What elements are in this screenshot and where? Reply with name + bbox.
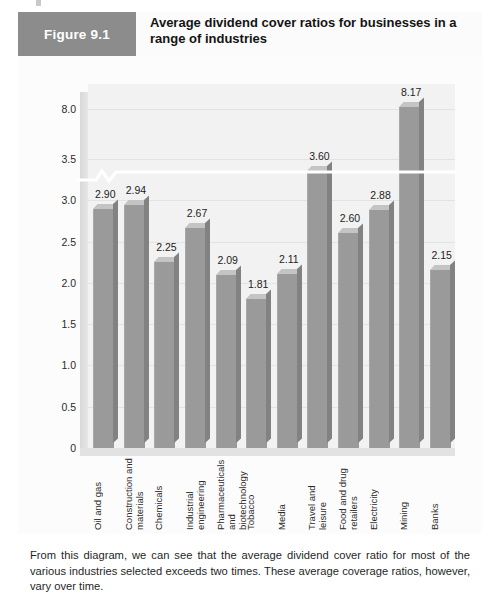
bar-front-face bbox=[307, 171, 328, 448]
y-axis-tick-label: 0 bbox=[44, 442, 76, 454]
bar-side-face bbox=[266, 289, 271, 443]
plot-floor bbox=[80, 448, 455, 456]
figure-number-badge: Figure 9.1 bbox=[18, 12, 136, 56]
y-axis-tick-label: 0.5 bbox=[44, 401, 76, 413]
bar-value-label: 2.15 bbox=[423, 249, 461, 261]
bar-value-label: 3.60 bbox=[300, 150, 338, 162]
plot-left-wall bbox=[80, 92, 88, 456]
panel-divider bbox=[18, 534, 482, 535]
page-artifact-speck bbox=[36, 0, 41, 6]
bar-side-face bbox=[327, 161, 332, 443]
bar-front-face bbox=[338, 233, 359, 448]
bar[interactable] bbox=[246, 299, 266, 448]
x-axis-category-label: Pharmaceuticals and biotechnology bbox=[215, 456, 241, 530]
bar-front-face bbox=[185, 228, 206, 448]
x-axis-category-label: Media bbox=[276, 456, 302, 530]
bar[interactable] bbox=[399, 107, 419, 448]
y-axis-tick-label: 8.0 bbox=[44, 103, 76, 115]
bar[interactable] bbox=[369, 210, 389, 448]
y-axis-tick-label: 3.5 bbox=[44, 153, 76, 165]
figure-title: Average dividend cover ratios for busine… bbox=[150, 15, 480, 47]
chart-body: 2.902.942.252.672.091.812.113.602.602.88… bbox=[18, 56, 482, 534]
figure-header: Figure 9.1 Average dividend cover ratios… bbox=[18, 12, 482, 56]
bar-front-face bbox=[399, 107, 420, 448]
y-axis-tick-label: 1.5 bbox=[44, 318, 76, 330]
bar[interactable] bbox=[338, 233, 358, 448]
bar-front-face bbox=[369, 210, 390, 448]
bar[interactable] bbox=[93, 209, 113, 448]
bar-front-face bbox=[216, 275, 237, 448]
x-axis-category-label: Tobacco bbox=[245, 456, 271, 530]
bar-value-label: 2.67 bbox=[178, 207, 216, 219]
x-axis-category-label: Construction and materials bbox=[123, 456, 149, 530]
bar-side-face bbox=[113, 199, 118, 443]
bar-side-face bbox=[297, 264, 302, 443]
x-axis-category-label: Food and drug retailers bbox=[337, 456, 363, 530]
bar-value-label: 1.81 bbox=[239, 278, 277, 290]
bar-value-label: 2.09 bbox=[209, 254, 247, 266]
x-axis-category-label: Mining bbox=[398, 456, 424, 530]
x-axis-category-label: Oil and gas bbox=[92, 456, 118, 530]
bar-front-face bbox=[246, 299, 267, 448]
y-axis-tick-label: 2.5 bbox=[44, 236, 76, 248]
bar-front-face bbox=[277, 274, 298, 448]
bar[interactable] bbox=[277, 274, 297, 448]
bar-side-face bbox=[144, 196, 149, 443]
bar-value-label: 2.88 bbox=[362, 189, 400, 201]
bar-side-face bbox=[389, 201, 394, 443]
bar-side-face bbox=[358, 224, 363, 443]
figure-panel: Figure 9.1 Average dividend cover ratios… bbox=[18, 12, 482, 534]
bar-front-face bbox=[430, 270, 451, 448]
gridline bbox=[88, 448, 455, 449]
bar-front-face bbox=[154, 262, 175, 448]
y-axis-tick-label: 1.0 bbox=[44, 359, 76, 371]
bar-value-label: 2.60 bbox=[331, 212, 369, 224]
bar[interactable] bbox=[154, 262, 174, 448]
bar-side-face bbox=[174, 253, 179, 443]
x-axis-category-label: Chemicals bbox=[153, 456, 179, 530]
plot-area: 2.902.942.252.672.091.812.113.602.602.88… bbox=[88, 84, 455, 448]
bar[interactable] bbox=[216, 275, 236, 448]
x-axis-category-label: Travel and leisure bbox=[306, 456, 332, 530]
bar-value-label: 2.11 bbox=[270, 253, 308, 265]
bar[interactable] bbox=[124, 205, 144, 448]
bar-side-face bbox=[236, 266, 241, 443]
figure-caption: From this diagram, we can see that the a… bbox=[30, 548, 470, 595]
bar[interactable] bbox=[430, 270, 450, 448]
bar-side-face bbox=[205, 218, 210, 443]
bar[interactable] bbox=[307, 171, 327, 448]
bar-value-label: 2.94 bbox=[117, 184, 155, 196]
x-axis-category-label: Electricity bbox=[368, 456, 394, 530]
bar[interactable] bbox=[185, 228, 205, 448]
bar-side-face bbox=[450, 261, 455, 443]
bar-value-label: 2.25 bbox=[147, 241, 185, 253]
y-axis-tick-label: 2.0 bbox=[44, 277, 76, 289]
bar-value-label: 8.17 bbox=[392, 86, 430, 98]
y-axis: 00.51.01.52.02.53.03.58.0 bbox=[40, 84, 76, 448]
y-axis-tick-label: 3.0 bbox=[44, 194, 76, 206]
bar-front-face bbox=[93, 209, 114, 448]
bar-front-face bbox=[124, 205, 145, 448]
x-axis-category-label: Banks bbox=[429, 456, 455, 530]
x-axis-category-label: Industrial engineering bbox=[184, 456, 210, 530]
bar-side-face bbox=[419, 97, 424, 443]
